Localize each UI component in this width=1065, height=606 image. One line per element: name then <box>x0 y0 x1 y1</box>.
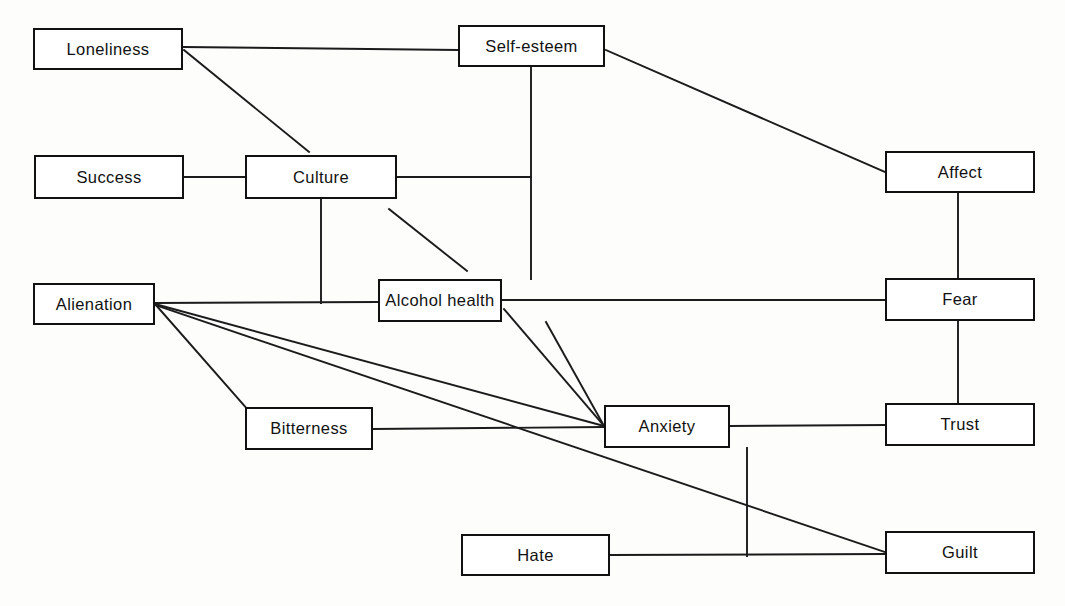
node-label-alienation: Alienation <box>56 296 132 313</box>
node-fear[interactable]: Fear <box>885 278 1035 321</box>
node-label-self_esteem: Self-esteem <box>485 38 577 55</box>
node-label-trust: Trust <box>941 416 980 433</box>
node-self_esteem[interactable]: Self-esteem <box>458 25 605 67</box>
node-anxiety[interactable]: Anxiety <box>604 405 730 448</box>
node-alienation[interactable]: Alienation <box>33 283 155 325</box>
node-label-loneliness: Loneliness <box>67 41 150 58</box>
node-alcohol_health[interactable]: Alcohol health <box>378 279 502 322</box>
node-affect[interactable]: Affect <box>885 151 1035 193</box>
node-culture[interactable]: Culture <box>245 155 397 199</box>
node-label-guilt: Guilt <box>942 544 978 561</box>
node-label-hate: Hate <box>517 547 553 564</box>
node-success[interactable]: Success <box>34 155 184 199</box>
node-label-affect: Affect <box>938 164 982 181</box>
node-label-culture: Culture <box>293 169 349 186</box>
node-label-fear: Fear <box>942 291 978 308</box>
node-trust[interactable]: Trust <box>885 403 1035 446</box>
node-guilt[interactable]: Guilt <box>885 531 1035 574</box>
node-label-success: Success <box>76 169 141 186</box>
node-bitterness[interactable]: Bitterness <box>245 407 373 450</box>
node-label-bitterness: Bitterness <box>270 420 347 437</box>
node-loneliness[interactable]: Loneliness <box>33 28 183 70</box>
node-hate[interactable]: Hate <box>461 534 610 576</box>
node-label-anxiety: Anxiety <box>639 418 696 435</box>
concept-network-diagram: LonelinessSelf-esteemSuccessCultureAffec… <box>0 0 1065 606</box>
node-label-alcohol_health: Alcohol health <box>385 292 494 309</box>
node-layer: LonelinessSelf-esteemSuccessCultureAffec… <box>0 0 1065 606</box>
